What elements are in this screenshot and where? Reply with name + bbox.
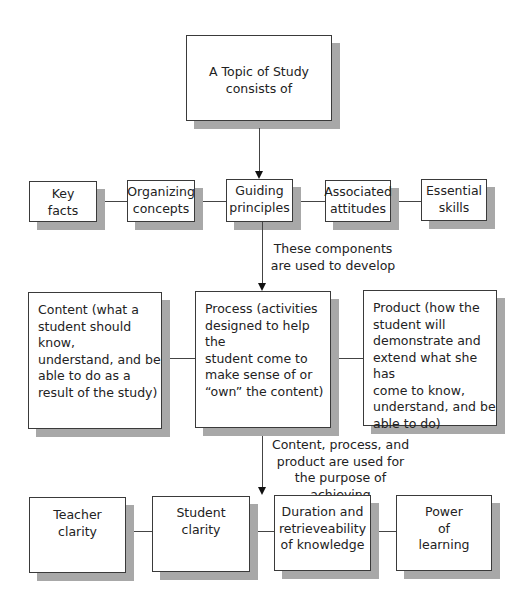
arrowhead-icon bbox=[258, 283, 266, 291]
arrow-components-to-dimensions-line bbox=[262, 222, 263, 284]
arrow-topic-to-components-line bbox=[259, 128, 260, 172]
component-text: Organizing bbox=[127, 184, 195, 201]
dimension-text: designed to help the bbox=[205, 318, 330, 351]
dimension-text: result of the study) bbox=[38, 385, 161, 402]
outcome-text: Power bbox=[425, 504, 463, 521]
component-text: Associated bbox=[324, 184, 392, 201]
outcome-text: of bbox=[438, 521, 450, 538]
component-guiding-principles: Guiding principles bbox=[226, 179, 293, 222]
dimension-product: Product (how the student will demonstrat… bbox=[363, 290, 497, 426]
connector-text: These components bbox=[268, 241, 398, 258]
dimension-text: understand, and be bbox=[373, 399, 496, 416]
dimension-text: understand, and be bbox=[38, 352, 161, 369]
outcome-text: retrieveability bbox=[279, 521, 366, 538]
outcome-text: learning bbox=[419, 537, 470, 554]
topic-line-1: A Topic of Study bbox=[209, 64, 309, 81]
arrowhead-icon bbox=[255, 171, 263, 179]
dimension-text: demonstrate and bbox=[373, 333, 496, 350]
outcome-text: clarity bbox=[182, 522, 221, 539]
outcome-text: Student bbox=[176, 505, 225, 522]
connector-text: are used to develop bbox=[268, 258, 398, 275]
dimension-text: Process (activities bbox=[205, 301, 330, 318]
outcome-duration-retrieveability: Duration and retrieveability of knowledg… bbox=[274, 495, 371, 571]
component-essential-skills: Essential skills bbox=[421, 179, 487, 221]
connector-label-develop: These components are used to develop bbox=[268, 241, 398, 274]
dimension-content: Content (what a student should know, und… bbox=[28, 292, 162, 429]
component-text: skills bbox=[439, 200, 470, 217]
dimension-process: Process (activities designed to help the… bbox=[195, 291, 331, 428]
dimension-text: student should know, bbox=[38, 319, 161, 352]
outcome-text: clarity bbox=[58, 524, 97, 541]
component-text: attitudes bbox=[330, 201, 386, 218]
outcome-text: Duration and bbox=[282, 504, 364, 521]
arrowhead-icon bbox=[258, 487, 266, 495]
connector-text: Content, process, and bbox=[268, 437, 413, 454]
dimension-text: student will bbox=[373, 317, 496, 334]
component-text: Guiding bbox=[235, 183, 283, 200]
dimension-text: make sense of or bbox=[205, 367, 330, 384]
dimension-text: able to do as a bbox=[38, 368, 161, 385]
outcome-text: Teacher bbox=[53, 507, 102, 524]
dimension-text: Content (what a bbox=[38, 302, 161, 319]
topic-line-2: consists of bbox=[226, 81, 292, 98]
outcome-student-clarity: Student clarity bbox=[152, 496, 250, 572]
component-text: principles bbox=[229, 200, 289, 217]
component-text: facts bbox=[48, 203, 78, 220]
dimension-text: extend what she has bbox=[373, 350, 496, 383]
component-organizing-concepts: Organizing concepts bbox=[127, 180, 195, 222]
component-text: Essential bbox=[426, 183, 482, 200]
topic-of-study-box: A Topic of Study consists of bbox=[186, 35, 332, 121]
component-text: Key bbox=[52, 186, 75, 203]
dimension-text: “own” the content) bbox=[205, 384, 330, 401]
connector-text: product are used for bbox=[268, 454, 413, 471]
arrow-dimensions-to-outcomes-line bbox=[262, 436, 263, 488]
outcome-text: of knowledge bbox=[281, 537, 365, 554]
component-associated-attitudes: Associated attitudes bbox=[325, 180, 391, 222]
outcome-teacher-clarity: Teacher clarity bbox=[29, 497, 126, 573]
connector-label-achieving: Content, process, and product are used f… bbox=[268, 437, 413, 503]
outcome-power-of-learning: Power of learning bbox=[396, 495, 492, 571]
dimension-text: student come to bbox=[205, 351, 330, 368]
component-key-facts: Key facts bbox=[29, 181, 97, 222]
component-text: concepts bbox=[133, 201, 189, 218]
dimension-text: Product (how the bbox=[373, 300, 496, 317]
dimension-text: come to know, bbox=[373, 383, 496, 400]
dimension-text: able to do) bbox=[373, 416, 496, 433]
